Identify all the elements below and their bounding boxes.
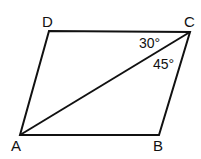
vertex-label-a: A — [11, 138, 21, 153]
angle-label-dca: 30° — [139, 36, 160, 50]
vertex-label-d: D — [42, 14, 53, 29]
angle-label-acb: 45° — [153, 57, 174, 71]
vertex-label-c: C — [184, 14, 195, 29]
parallelogram-figure — [0, 0, 201, 159]
vertex-label-b: B — [153, 138, 163, 153]
